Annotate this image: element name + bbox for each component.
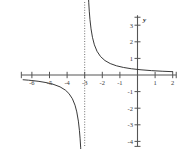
graph-canvas: -6-5-4-3-2-112321-1-2-3-4 y (0, 0, 186, 149)
y-tick-label: -3 (127, 121, 132, 128)
y-tick-label: -2 (127, 105, 132, 112)
y-tick-label: 1 (130, 55, 133, 62)
x-tick-label: -3 (82, 79, 87, 86)
function-plot: -6-5-4-3-2-112321-1-2-3-4 y (0, 0, 186, 149)
x-tick-label: -4 (64, 79, 70, 86)
x-tick-label: -1 (117, 79, 122, 86)
x-tick-label: -5 (47, 79, 52, 86)
x-tick-label: -2 (100, 79, 105, 86)
x-tick-label: 1 (153, 79, 156, 86)
y-tick-label: -4 (127, 138, 133, 145)
y-tick-label: -1 (127, 88, 132, 95)
y-tick-label: 3 (130, 22, 133, 29)
x-tick-label: 2 (171, 79, 174, 86)
y-tick-label: 2 (130, 38, 133, 45)
x-tick-label: -6 (29, 79, 35, 86)
